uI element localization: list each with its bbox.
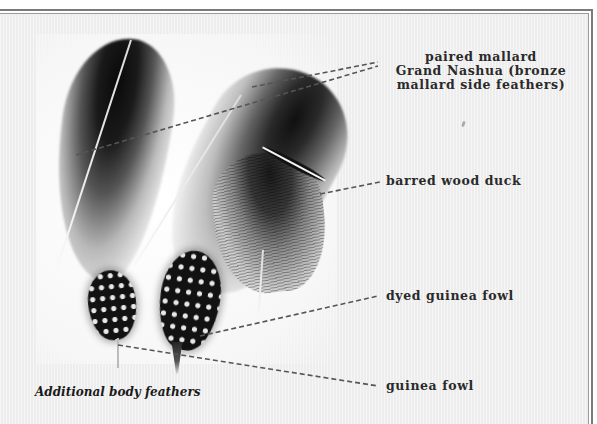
label-dyed-guinea-fowl: dyed guinea fowl <box>386 289 514 303</box>
figure-caption: Additional body feathers <box>35 385 200 399</box>
label-mallard-line2: Grand Nashua (bronze <box>386 64 576 78</box>
label-mallard-line3: mallard side feathers) <box>386 78 576 92</box>
label-mallard-line1: paired mallard <box>386 50 576 64</box>
label-guinea-fowl: guinea fowl <box>386 379 474 393</box>
label-wood-duck: barred wood duck <box>386 174 521 188</box>
label-mallard: paired mallard Grand Nashua (bronze mall… <box>386 50 576 92</box>
guinea-fowl-quill <box>117 338 119 368</box>
